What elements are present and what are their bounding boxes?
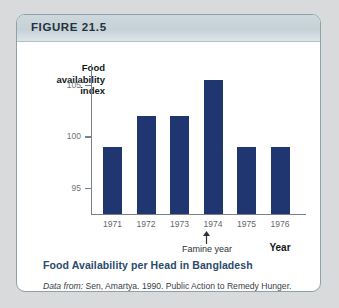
- y-tick-105: [85, 85, 91, 86]
- bar-1975: [237, 147, 256, 214]
- figure-source-note: Data from: Sen, Amartya. 1990. Public Ac…: [43, 281, 315, 292]
- y-tick-100: [85, 136, 91, 137]
- figure-caption-title: Food Availability per Head in Bangladesh: [43, 259, 253, 271]
- x-label-1976: 1976: [263, 219, 297, 229]
- bar-1976: [271, 147, 290, 214]
- x-axis-title: Year: [255, 242, 305, 253]
- x-label-1971: 1971: [96, 219, 130, 229]
- famine-year-arrow-icon: [202, 231, 211, 244]
- y-tick-label-95: 95: [51, 183, 81, 193]
- y-axis-line: [91, 64, 92, 215]
- x-axis-line: [91, 214, 306, 215]
- figure-header: FIGURE 21.5: [17, 15, 320, 42]
- figure-number-label: FIGURE 21.5: [31, 21, 107, 33]
- y-tick-label-105: 105: [51, 80, 81, 90]
- source-prefix: Data from:: [43, 281, 83, 291]
- bar-1973: [170, 116, 189, 214]
- x-label-1975: 1975: [230, 219, 264, 229]
- y-tick-label-100: 100: [51, 131, 81, 141]
- famine-year-annotation: Famine year: [149, 244, 265, 254]
- bar-1972: [137, 116, 156, 214]
- figure-box: FIGURE 21.5 Food availability index 9510…: [16, 14, 321, 292]
- y-tick-95: [85, 188, 91, 189]
- bar-1971: [103, 147, 122, 214]
- chart-plot-area: Food availability index 95100105 1971197…: [17, 42, 321, 292]
- x-label-1974: 1974: [196, 219, 230, 229]
- x-label-1972: 1972: [129, 219, 163, 229]
- bar-1974: [204, 80, 223, 214]
- x-label-1973: 1973: [163, 219, 197, 229]
